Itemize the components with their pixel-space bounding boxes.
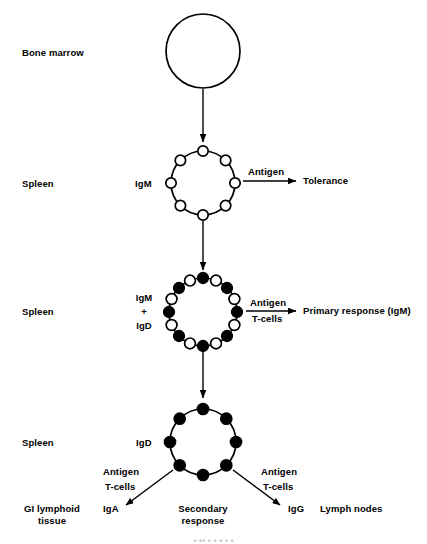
receptor-open [230, 178, 240, 188]
receptor-label-igd: IgD [136, 437, 152, 449]
signal-label-antigen-1: Antigen [248, 166, 284, 178]
receptor-closed [222, 331, 233, 342]
outcome-label-tolerance: Tolerance [303, 175, 348, 187]
receptor-closed [164, 307, 175, 318]
signal-label-antigen-right: Antigen [261, 466, 297, 478]
site-label-spleen-2: Spleen [22, 306, 54, 318]
receptor-open [211, 275, 222, 286]
receptor-closed [198, 341, 209, 352]
receptor-open [185, 338, 196, 349]
receptor-open [229, 294, 240, 305]
site-label-bone-marrow: Bone marrow [22, 47, 84, 59]
receptor-open [175, 200, 185, 210]
receptor-label-igm: IgM [135, 178, 152, 190]
tissue-label-gi-lymphoid-line2: tissue [14, 515, 90, 527]
receptor-open [229, 320, 240, 331]
tissue-label-lymph-nodes: Lymph nodes [320, 503, 383, 515]
receptor-closed [174, 460, 185, 471]
receptor-closed [222, 283, 233, 294]
cropped-caption-sliver: • •• • • • • • [0, 536, 427, 544]
diagram-canvas [0, 0, 427, 544]
receptor-closed [232, 307, 243, 318]
signal-label-tcells-right: T-cells [263, 481, 293, 493]
tissue-label-gi-lymphoid-line1: GI lymphoid [14, 503, 90, 515]
receptor-open [175, 155, 185, 165]
receptor-open [198, 210, 208, 220]
stage-spleen-igm-cell [166, 146, 240, 220]
receptor-closed [197, 403, 208, 414]
antibody-label-iga: IgA [103, 503, 119, 515]
receptor-open [220, 200, 230, 210]
diagram-page: Bone marrow Spleen IgM Antigen Tolerance… [0, 0, 427, 544]
receptor-closed [164, 436, 175, 447]
receptor-closed [174, 413, 185, 424]
site-label-spleen-1: Spleen [22, 178, 54, 190]
receptor-closed [174, 331, 185, 342]
receptor-closed [198, 273, 209, 284]
receptor-open [166, 178, 176, 188]
receptor-open [198, 146, 208, 156]
receptor-label-igd-line: IgD [128, 320, 160, 333]
signal-label-antigen-left: Antigen [103, 466, 139, 478]
receptor-closed [221, 413, 232, 424]
receptor-closed [230, 436, 241, 447]
receptor-open [220, 155, 230, 165]
receptor-open [166, 320, 177, 331]
branch-label-secondary-line2: response [155, 515, 251, 527]
receptor-label-igm-line: IgM [128, 292, 160, 305]
receptor-closed [221, 460, 232, 471]
receptor-open [185, 275, 196, 286]
stage-bone-marrow-cell [166, 14, 240, 88]
receptor-open [166, 294, 177, 305]
outcome-label-primary-response: Primary response (IgM) [303, 305, 411, 317]
receptor-closed [197, 469, 208, 480]
signal-label-tcells-2: T-cells [252, 313, 282, 325]
receptor-label-plus-sign: + [128, 306, 160, 319]
stage-spleen-igd-cell [164, 403, 241, 480]
antibody-label-igg: IgG [288, 503, 304, 515]
signal-label-tcells-left: T-cells [105, 481, 135, 493]
site-label-spleen-3: Spleen [22, 437, 54, 449]
receptor-closed [174, 283, 185, 294]
signal-label-antigen-2: Antigen [250, 297, 286, 309]
branch-label-secondary-line1: Secondary [155, 503, 251, 515]
receptor-open [211, 338, 222, 349]
stage-spleen-igm-igd-cell [164, 273, 243, 352]
